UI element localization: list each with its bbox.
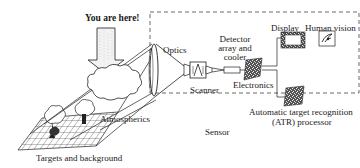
cloud-icon <box>88 64 142 100</box>
atr-processor-icon <box>284 86 304 106</box>
sensor-label: Sensor <box>205 128 230 137</box>
atr-label-line1: Automatic target recognition <box>249 108 353 117</box>
scanner-label: Scanner <box>190 86 219 95</box>
human-vision-label: Human vision <box>305 24 356 33</box>
detector-label-line3: cooler <box>215 53 255 62</box>
display-monitor-icon <box>281 32 305 48</box>
atr-label-line2: (ATR) processor <box>272 118 332 127</box>
atmospherics-label: Atmospherics <box>100 115 150 124</box>
sensor-system-diagram: You are here! Optics Scanner Detector ar… <box>0 0 360 168</box>
targets-background-label: Targets and background <box>36 154 122 163</box>
human-eye-icon <box>319 31 335 46</box>
optics-label: Optics <box>163 46 187 55</box>
detector-cooler-icon <box>224 67 246 73</box>
electronics-label: Electronics <box>233 81 273 90</box>
you-are-here-label: You are here! <box>85 14 140 23</box>
display-label: Display <box>271 24 299 33</box>
scanner-icon <box>184 62 224 78</box>
